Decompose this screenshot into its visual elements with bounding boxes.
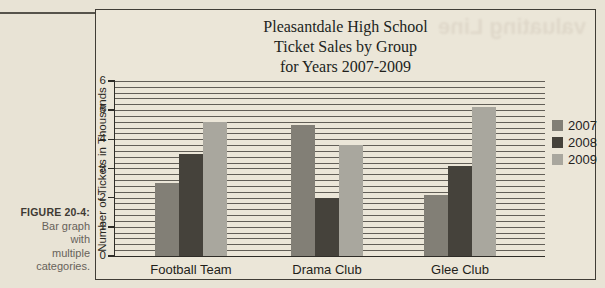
y-tick	[108, 80, 115, 82]
y-tick	[108, 255, 115, 257]
chart-title-line: Pleasantdale High School	[96, 17, 595, 37]
y-tick-label: 2	[87, 191, 106, 203]
figure-caption-line: with	[0, 233, 90, 247]
x-category-label: Football Team	[121, 262, 261, 277]
legend-label: 2007	[568, 118, 597, 133]
bar-football-team-2009	[203, 122, 227, 256]
y-tick	[108, 226, 115, 228]
x-category-label: Drama Club	[257, 262, 397, 277]
bar-football-team-2008	[179, 154, 203, 256]
legend-swatch-icon	[552, 137, 563, 148]
bar-glee-club-2007	[424, 195, 448, 256]
legend-label: 2009	[568, 152, 597, 167]
legend-item-2009: 2009	[552, 151, 597, 168]
legend-item-2008: 2008	[552, 134, 597, 151]
y-tick	[108, 197, 115, 199]
legend: 200720082009	[552, 117, 597, 168]
bar-drama-club-2009	[339, 145, 363, 256]
legend-item-2007: 2007	[552, 117, 597, 134]
legend-label: 2008	[568, 135, 597, 150]
y-tick	[108, 168, 115, 170]
figure-caption: FIGURE 20-4: Bar graph with multiple cat…	[0, 206, 90, 274]
y-tick	[108, 139, 115, 141]
figure-caption-line: multiple	[0, 247, 90, 261]
bar-football-team-2007	[155, 183, 179, 256]
y-tick	[108, 109, 115, 111]
figure-caption-label: FIGURE 20-4:	[0, 206, 90, 220]
bar-glee-club-2008	[448, 166, 472, 256]
plot-area: 0123456 Football TeamDrama ClubGlee Club	[114, 81, 545, 257]
bar-glee-club-2009	[472, 107, 496, 256]
chart-frame: valuating Line Pleasantdale High School …	[95, 9, 596, 280]
margin-rule	[0, 12, 97, 14]
figure-caption-line: categories.	[0, 260, 90, 274]
y-tick-label: 1	[87, 220, 106, 232]
legend-swatch-icon	[552, 154, 563, 165]
bar-drama-club-2007	[291, 125, 315, 256]
x-category-label: Glee Club	[390, 262, 530, 277]
y-tick-label: 3	[87, 162, 106, 174]
y-tick-label: 5	[87, 103, 106, 115]
figure-caption-line: Bar graph	[0, 220, 90, 234]
legend-swatch-icon	[552, 120, 563, 131]
chart-title-line: for Years 2007-2009	[96, 57, 595, 77]
bar-drama-club-2008	[315, 198, 339, 256]
y-tick-label: 6	[87, 74, 106, 86]
y-tick-label: 0	[87, 249, 106, 261]
y-tick-label: 4	[87, 132, 106, 144]
chart-title-line: Ticket Sales by Group	[96, 37, 595, 57]
chart-title: Pleasantdale High School Ticket Sales by…	[96, 17, 595, 77]
